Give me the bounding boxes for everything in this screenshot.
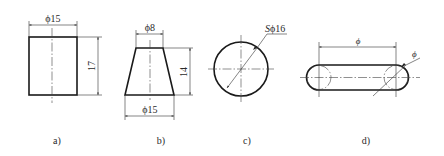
diameter-label: ϕ15 — [45, 13, 60, 24]
section-diameter-leader — [373, 65, 406, 96]
view-a-cylinder: ϕ15 17 a) — [29, 13, 102, 147]
diameter-leader — [227, 48, 257, 88]
section-diameter-label: ϕ — [412, 49, 417, 59]
cone-outline — [125, 48, 174, 95]
view-label-d: d) — [362, 135, 370, 147]
sphere-diameter-label: Sϕ16 — [265, 23, 285, 34]
top-diameter-label: ϕ8 — [145, 22, 155, 33]
view-b-truncated-cone: ϕ8 ϕ15 14 b) — [125, 22, 193, 147]
view-label-c: c) — [243, 135, 251, 147]
technical-drawing: ϕ15 17 a) ϕ8 ϕ15 14 b) Sϕ16 — [0, 0, 444, 156]
center-distance-label: ϕ — [356, 36, 361, 46]
height-label: 14 — [178, 67, 189, 77]
view-d-slot: ϕ ϕ d) — [300, 36, 420, 147]
height-label: 17 — [86, 61, 97, 71]
bottom-diameter-label: ϕ15 — [142, 104, 157, 115]
section-diameter-leader-ext — [406, 58, 420, 65]
arrowhead — [401, 63, 406, 67]
cylinder-outline — [29, 37, 77, 95]
view-label-b: b) — [157, 135, 165, 147]
diameter-leader-ext — [257, 34, 267, 48]
view-label-a: a) — [53, 135, 61, 147]
view-c-sphere: Sϕ16 c) — [208, 23, 287, 147]
